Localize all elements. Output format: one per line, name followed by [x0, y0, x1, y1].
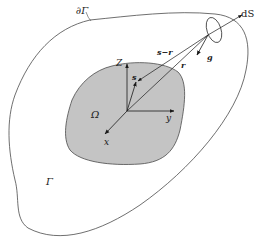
- label-outer-region: Γ: [45, 176, 54, 187]
- label-vector-s-minus-r: s−r: [157, 47, 173, 57]
- label-surface-element: dS: [241, 8, 254, 19]
- label-vector-g: g: [207, 52, 213, 62]
- label-inner-region: Ω: [90, 109, 99, 120]
- diagram-canvas: ∂Γ Γ Ω dS Z y x s s−r r g: [0, 0, 261, 244]
- label-axis-x: x: [104, 137, 109, 147]
- label-axis-y: y: [165, 113, 172, 123]
- label-outer-boundary: ∂Γ: [76, 5, 89, 16]
- label-axis-z: Z: [115, 58, 123, 68]
- label-source-point: s: [132, 72, 137, 82]
